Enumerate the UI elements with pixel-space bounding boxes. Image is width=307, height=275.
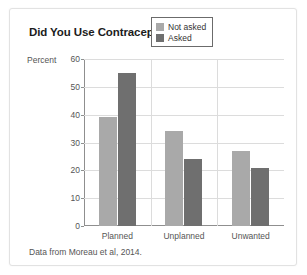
y-axis-tick-label: 50 [71, 82, 80, 92]
legend-label: Asked [168, 33, 192, 43]
x-axis-tick-label: Unwanted [217, 231, 284, 241]
y-axis-tick-label: 40 [71, 110, 80, 120]
bar [251, 168, 269, 226]
bar [232, 151, 250, 226]
bar [165, 131, 183, 226]
bar-group: Unwanted [217, 59, 284, 226]
figure-card: Did You Use Contraception? Percent 01020… [9, 8, 297, 266]
legend-label: Not asked [168, 22, 206, 32]
bar [118, 73, 136, 226]
y-axis-tick-label: 30 [71, 138, 80, 148]
y-axis-tick-label: 10 [71, 193, 80, 203]
legend-item: Asked [156, 32, 206, 43]
chart-legend: Not askedAsked [151, 17, 213, 47]
plot-area: 0102030405060 PlannedUnplannedUnwanted [84, 59, 284, 226]
x-axis-tick-label: Unplanned [151, 231, 218, 241]
bar [99, 117, 117, 226]
bar-group: Unplanned [151, 59, 218, 226]
y-axis-tick-label: 0 [75, 221, 80, 231]
x-axis-tick-label: Planned [84, 231, 151, 241]
legend-swatch [156, 23, 164, 31]
legend-item: Not asked [156, 21, 206, 32]
bar [184, 159, 202, 226]
source-note: Data from Moreau et al, 2014. [29, 247, 142, 257]
tick-mark [81, 226, 84, 227]
bar-group: Planned [84, 59, 151, 226]
y-axis-title: Percent [27, 55, 56, 65]
legend-swatch [156, 34, 164, 42]
y-axis-tick-label: 20 [71, 165, 80, 175]
y-axis-tick-label: 60 [71, 54, 80, 64]
